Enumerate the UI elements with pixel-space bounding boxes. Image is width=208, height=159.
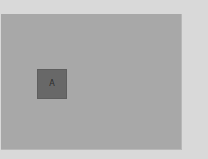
canvas-area: A [1, 14, 182, 150]
draggable-tile-a[interactable]: A [37, 69, 67, 99]
tile-label: A [49, 80, 54, 88]
